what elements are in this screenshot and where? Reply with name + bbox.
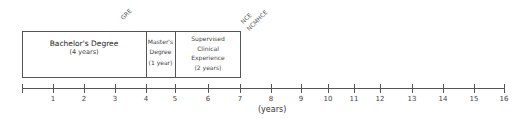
axis-tick-9 [301,84,302,93]
axis-label-15: 15 [464,95,484,103]
axis-label-3: 3 [105,95,125,103]
segment-title-line3: Experience [191,53,224,63]
axis-label-8: 8 [261,95,281,103]
segment-duration: (2 years) [195,63,222,73]
axis-tick-5 [175,84,176,93]
segment-title-line1: Supervised [191,34,224,44]
axis-tick-16 [504,84,505,93]
axis-tick-10 [328,84,329,93]
axis-label-16: 16 [494,95,514,103]
axis-label-5: 5 [165,95,185,103]
segment-masters-degree: Master's Degree (1 year) [146,31,175,78]
axis-tick-12 [380,84,381,93]
axis-label-6: 6 [198,95,218,103]
segment-title-line1: Master's [148,37,173,47]
axis-tick-14 [443,84,444,93]
axis-unit-label: (years) [258,105,286,114]
axis-tick-11 [354,84,355,93]
axis-label-1: 1 [43,95,63,103]
axis-label-11: 11 [344,95,364,103]
axis-label-14: 14 [433,95,453,103]
axis-label-12: 12 [370,95,390,103]
axis-tick-0 [22,84,23,93]
axis-tick-15 [474,84,475,93]
axis-tick-1 [53,84,54,93]
segment-duration: (1 year) [149,58,173,68]
axis-label-2: 2 [74,95,94,103]
axis-tick-7 [240,84,241,93]
segment-title-line2: Degree [150,47,172,57]
axis-label-13: 13 [402,95,422,103]
axis-label-9: 9 [291,95,311,103]
segment-supervised-clinical-experience: Supervised Clinical Experience (2 years) [175,31,241,78]
timeline-axis [22,88,505,89]
segment-title: Bachelor's Degree [50,39,119,48]
axis-tick-13 [412,84,413,93]
axis-label-10: 10 [318,95,338,103]
axis-label-7: 7 [230,95,250,103]
axis-tick-4 [146,84,147,93]
axis-label-4: 4 [136,95,156,103]
axis-tick-2 [84,84,85,93]
axis-tick-6 [208,84,209,93]
axis-tick-3 [115,84,116,93]
segment-bachelors-degree: Bachelor's Degree (4 years) [22,31,146,78]
milestone-gre: GRE [119,7,133,21]
segment-duration: (4 years) [69,48,98,57]
axis-tick-8 [271,84,272,93]
segment-title-line2: Clinical [197,44,219,54]
